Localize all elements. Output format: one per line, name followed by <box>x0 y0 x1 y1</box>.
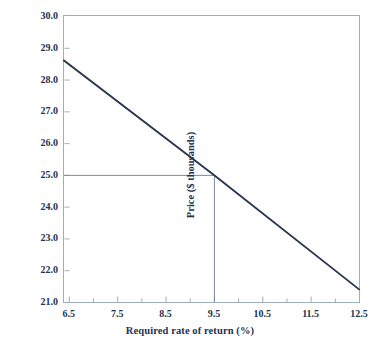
x-tick-label: 12.5 <box>342 308 376 319</box>
x-tick-label: 9.5 <box>197 308 231 319</box>
y-tick-label: 24.0 <box>24 201 58 212</box>
y-tick-label: 21.0 <box>24 296 58 307</box>
y-tick-label: 27.0 <box>24 105 58 116</box>
x-tick-label: 7.5 <box>100 308 134 319</box>
x-axis-title: Required rate of return (%) <box>0 325 380 336</box>
x-tick-label: 6.5 <box>52 308 86 319</box>
y-tick-label: 28.0 <box>24 74 58 85</box>
x-axis-title-text: Required rate of return (%) <box>126 325 254 336</box>
price-vs-required-return-chart: 21.022.023.024.025.026.027.028.029.030.0… <box>0 0 380 350</box>
y-tick-label: 23.0 <box>24 232 58 243</box>
y-tick-label: 30.0 <box>24 10 58 21</box>
plot-frame <box>64 16 360 303</box>
y-axis-title-text: Price ($ thousands) <box>185 132 196 218</box>
y-tick-label: 22.0 <box>24 264 58 275</box>
y-tick-label: 29.0 <box>24 42 58 53</box>
x-tick-label: 11.5 <box>294 308 328 319</box>
x-tick-label: 8.5 <box>149 308 183 319</box>
y-tick-label: 26.0 <box>24 137 58 148</box>
x-tick-label: 10.5 <box>245 308 279 319</box>
y-tick-label: 25.0 <box>24 169 58 180</box>
